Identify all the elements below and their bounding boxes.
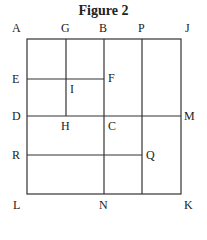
label-I: I <box>70 83 74 95</box>
label-F: F <box>108 72 115 84</box>
label-N: N <box>99 199 108 211</box>
label-M: M <box>184 110 195 122</box>
label-Q: Q <box>146 149 155 161</box>
label-H: H <box>61 120 70 132</box>
label-A: A <box>12 22 21 34</box>
label-K: K <box>184 199 193 211</box>
label-D: D <box>12 110 21 122</box>
label-G: G <box>61 22 70 34</box>
label-B: B <box>99 22 107 34</box>
label-C: C <box>108 120 116 132</box>
label-E: E <box>12 73 19 85</box>
label-R: R <box>12 149 20 161</box>
label-L: L <box>13 199 20 211</box>
label-P: P <box>138 22 145 34</box>
label-J: J <box>185 22 190 34</box>
